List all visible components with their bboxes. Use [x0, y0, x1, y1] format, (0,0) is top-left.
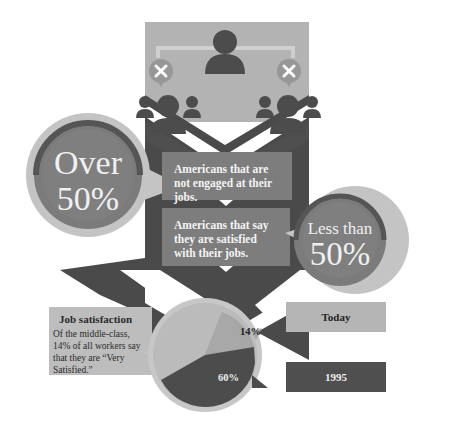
legend-today-label: Today [322, 311, 351, 323]
job-satisfaction-body: Of the middle-class, 14% of all workers … [53, 328, 148, 376]
over-50-label: Over 50% [38, 146, 138, 216]
legend-1995: 1995 [286, 362, 386, 392]
x-badge-icon [276, 58, 302, 88]
job-satisfaction-title: Job satisfaction [59, 313, 148, 325]
legend-1995-label: 1995 [325, 371, 347, 383]
pie-chart [140, 290, 280, 420]
x-badge-icon [148, 58, 174, 88]
over-50-line1: Over [38, 146, 138, 180]
less-50-label: Less than 50% [300, 220, 380, 271]
callout-pointer [219, 200, 233, 206]
job-satisfaction-box: Job satisfaction Of the middle-class, 14… [49, 307, 152, 375]
pie-label-today: 14% [240, 326, 261, 337]
less-50-line1: Less than [300, 220, 380, 237]
callout-not-engaged-text: Americans that are not engaged at their … [174, 163, 272, 203]
callout-satisfied-text: Americans that say they are satisfied wi… [174, 219, 269, 259]
less-50-line2: 50% [300, 238, 380, 271]
pie-label-1995: 60% [218, 372, 239, 383]
legend-today: Today [286, 302, 386, 332]
over-50-line2: 50% [38, 182, 138, 216]
callout-pointer [219, 266, 233, 272]
rejected-group-right-icon [256, 92, 322, 134]
callout-not-engaged: Americans that are not engaged at their … [162, 152, 292, 200]
manager-person-icon [203, 28, 247, 74]
callout-satisfied: Americans that say they are satisfied wi… [162, 208, 290, 266]
